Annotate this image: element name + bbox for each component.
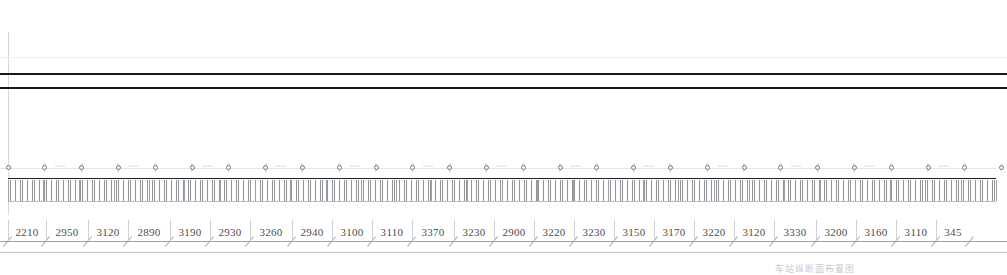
dimension-value: 3190	[170, 226, 210, 238]
dimension-value: 3260	[250, 226, 292, 238]
dimension-value: 345	[936, 226, 970, 238]
dimension-value: 3120	[88, 226, 128, 238]
dimension-value: 3110	[896, 226, 936, 238]
dimension-value: 3330	[774, 226, 816, 238]
dimension-value: 3120	[734, 226, 774, 238]
dimension-value: 3230	[454, 226, 494, 238]
dimension-value: 3170	[654, 226, 694, 238]
dimension-value: 2900	[494, 226, 534, 238]
dimension-value: 2210	[8, 226, 46, 238]
drawing-caption: 车站纵断面布置图	[775, 262, 855, 275]
dimension-value: 3220	[694, 226, 734, 238]
dimension-value: 3230	[574, 226, 614, 238]
dimension-value: 2890	[128, 226, 170, 238]
dimension-value: 3370	[412, 226, 454, 238]
dimension-value: 3220	[534, 226, 574, 238]
dimension-value: 3150	[614, 226, 654, 238]
dimension-value: 3200	[816, 226, 856, 238]
dimension-value: 2940	[292, 226, 332, 238]
dimension-value: 3100	[332, 226, 372, 238]
dimension-value: 2930	[210, 226, 250, 238]
dimension-value: 2950	[46, 226, 88, 238]
dimension-line-secondary	[0, 252, 1007, 253]
dimension-value: 3110	[372, 226, 412, 238]
dimension-value: 3160	[856, 226, 896, 238]
